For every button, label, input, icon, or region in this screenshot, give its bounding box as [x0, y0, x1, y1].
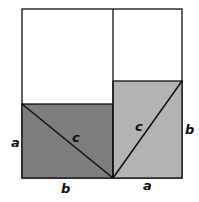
label-right-hypotenuse: c: [135, 119, 143, 134]
label-left-hypotenuse: c: [72, 130, 80, 145]
label-left-side: a: [11, 135, 20, 150]
label-right-bottom: a: [143, 178, 152, 193]
label-left-bottom: b: [61, 181, 70, 196]
label-right-side: b: [185, 122, 194, 137]
pythagorean-diagram: a c b c b a: [0, 0, 199, 202]
